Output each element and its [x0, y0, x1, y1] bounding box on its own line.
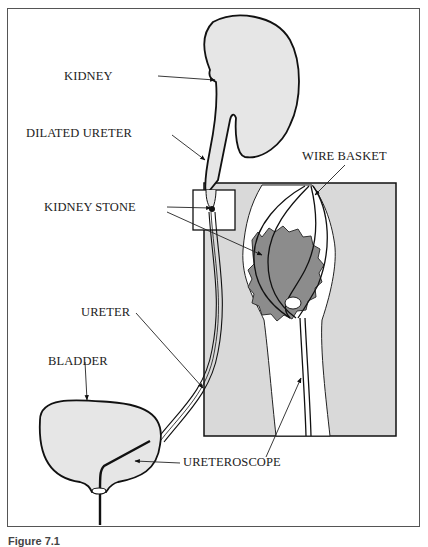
label-kidney-stone: KIDNEY STONE [44, 201, 136, 214]
label-ureteroscope: URETEROSCOPE [183, 456, 281, 469]
kidney-shape [204, 16, 299, 195]
label-ureter: URETER [81, 306, 130, 319]
label-dilated-ureter: DILATED URETER [26, 127, 132, 140]
figure-caption: Figure 7.1 [8, 535, 60, 547]
label-wire-basket: WIRE BASKET [302, 150, 387, 163]
label-bladder: BLADDER [48, 355, 108, 368]
label-kidney: KIDNEY [64, 70, 113, 83]
